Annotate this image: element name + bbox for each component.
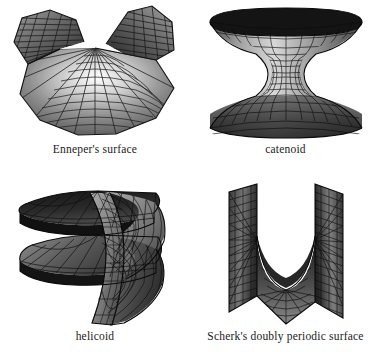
caption-catenoid: catenoid (265, 144, 306, 156)
panel-enneper: Enneper's surface (0, 0, 190, 176)
enneper-canvas (0, 0, 190, 144)
enneper-surface-render (6, 2, 184, 142)
helicoid-canvas (0, 176, 190, 331)
panel-scherk: Scherk's doubly periodic surface (190, 176, 381, 352)
catenoid-canvas (190, 0, 381, 144)
helicoid-surface-render (6, 179, 184, 327)
scherk-surface-render (211, 178, 361, 328)
caption-enneper: Enneper's surface (53, 144, 137, 156)
scherk-canvas (190, 176, 381, 331)
caption-helicoid: helicoid (76, 331, 115, 343)
minimal-surfaces-figure: Enneper's surface (0, 0, 381, 352)
panel-catenoid: catenoid (190, 0, 381, 176)
catenoid-surface-render (200, 2, 372, 142)
caption-scherk: Scherk's doubly periodic surface (207, 331, 363, 343)
panel-helicoid: helicoid (0, 176, 190, 352)
